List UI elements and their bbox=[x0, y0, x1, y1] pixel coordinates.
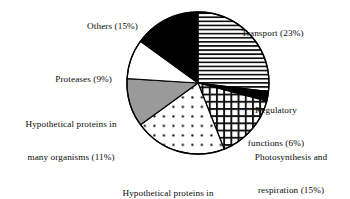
pie-label-cyanobacteria-line1: Hypothetical proteins in bbox=[122, 188, 213, 199]
pie-label-photosynthesis-respiration: Photosynthesis and respiration (15%) bbox=[255, 130, 328, 199]
pie-label-hypothetical-many-organisms: Hypothetical proteins in many organisms … bbox=[25, 97, 116, 185]
pie-label-photosynthesis-line2: respiration (15%) bbox=[255, 185, 328, 196]
pie-chart-figure: Transport (23%) Regulatory functions (6%… bbox=[0, 0, 350, 199]
pie-label-regulatory-line1: Regulatory bbox=[248, 105, 304, 116]
pie-label-photosynthesis-line1: Photosynthesis and bbox=[255, 152, 328, 163]
pie-label-many-organisms-line1: Hypothetical proteins in bbox=[25, 119, 116, 130]
pie-label-hypothetical-cyanobacteria: Hypothetical proteins in cyanobacteria (… bbox=[122, 166, 213, 199]
pie-label-proteases: Proteases (9%) bbox=[46, 63, 112, 96]
pie-label-others: Others (15%) bbox=[77, 10, 138, 43]
pie-label-others-text: Others (15%) bbox=[87, 21, 138, 31]
pie-label-transport: Transport (23%) bbox=[232, 17, 304, 50]
pie-label-many-organisms-line2: many organisms (11%) bbox=[25, 152, 116, 163]
pie-label-transport-text: Transport (23%) bbox=[241, 28, 303, 38]
pie-label-proteases-text: Proteases (9%) bbox=[55, 74, 112, 84]
